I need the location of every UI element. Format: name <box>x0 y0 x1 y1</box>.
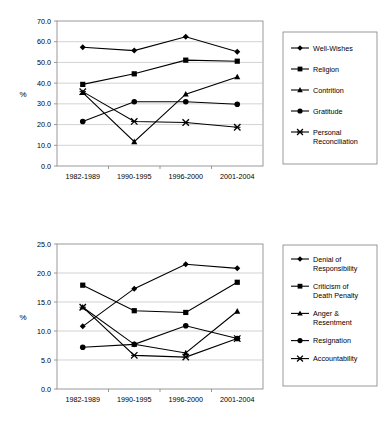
marker-circle <box>234 101 240 107</box>
legend-label: Denial of <box>313 255 341 264</box>
legend-label: Reconciliation <box>313 137 358 146</box>
x-tick-label: 1990-1995 <box>117 395 151 404</box>
legend-label: Religion <box>313 65 339 74</box>
marker-square <box>298 284 303 289</box>
marker-square <box>80 82 85 87</box>
x-tick-label: 1982-1989 <box>66 395 100 404</box>
x-tick-label: 1996-2000 <box>169 395 203 404</box>
marker-circle <box>80 119 86 125</box>
marker-circle <box>297 338 302 343</box>
y-tick-label: 5.0 <box>41 356 51 365</box>
marker-circle <box>297 108 302 113</box>
y-tick-label: 15.0 <box>37 298 51 307</box>
marker-circle <box>183 323 189 329</box>
x-tick-label: 1996-2000 <box>169 172 203 181</box>
marker-square <box>132 71 137 76</box>
y-tick-label: 10.0 <box>37 327 51 336</box>
y-axis-title: % <box>19 313 26 322</box>
x-tick-label: 1982-1989 <box>66 172 100 181</box>
marker-circle <box>131 99 137 105</box>
marker-square <box>235 59 240 64</box>
marker-square <box>80 283 85 288</box>
line-chart: 0.05.010.015.020.025.0%1982-19891990-199… <box>0 219 381 438</box>
marker-square <box>183 310 188 315</box>
legend-label: Personal <box>313 128 342 137</box>
y-tick-label: 40.0 <box>37 79 51 88</box>
y-tick-label: 20.0 <box>37 269 51 278</box>
y-tick-label: 0.0 <box>41 162 51 171</box>
y-tick-label: 20.0 <box>37 120 51 129</box>
marker-circle <box>183 99 189 105</box>
chart-figure-bottom: 0.05.010.015.020.025.0%1982-19891990-199… <box>0 219 381 438</box>
legend-label: Well-Wishes <box>313 44 353 53</box>
legend-label: Responsibility <box>313 264 358 273</box>
y-tick-label: 60.0 <box>37 37 51 46</box>
marker-circle <box>80 344 86 350</box>
legend-label: Death Penalty <box>313 291 359 300</box>
legend-label: Resentment <box>313 318 352 327</box>
marker-square <box>235 280 240 285</box>
legend-label: Contrition <box>313 86 344 95</box>
legend-label: Criticism of <box>313 282 349 291</box>
x-tick-label: 2001-2004 <box>220 172 254 181</box>
line-chart: 0.010.020.030.040.050.060.070.0%1982-198… <box>0 0 381 219</box>
x-tick-label: 1990-1995 <box>117 172 151 181</box>
legend-label: Gratitude <box>313 107 343 116</box>
y-axis-title: % <box>19 90 26 99</box>
legend-label: Resignation <box>313 336 351 345</box>
marker-square <box>183 58 188 63</box>
legend-label: Accountability <box>313 354 358 363</box>
y-tick-label: 70.0 <box>37 17 51 26</box>
x-tick-label: 2001-2004 <box>220 395 254 404</box>
chart-top: 0.010.020.030.040.050.060.070.0%1982-198… <box>0 0 381 219</box>
y-tick-label: 0.0 <box>41 385 51 394</box>
marker-square <box>132 308 137 313</box>
y-tick-label: 10.0 <box>37 141 51 150</box>
marker-square <box>298 67 303 72</box>
chart-figure-top: 0.010.020.030.040.050.060.070.0%1982-198… <box>0 0 381 219</box>
y-tick-label: 25.0 <box>37 240 51 249</box>
legend-label: Anger & <box>313 309 339 318</box>
y-tick-label: 30.0 <box>37 99 51 108</box>
y-tick-label: 50.0 <box>37 58 51 67</box>
chart-bottom: 0.05.010.015.020.025.0%1982-19891990-199… <box>0 219 381 438</box>
marker-circle <box>131 342 137 348</box>
